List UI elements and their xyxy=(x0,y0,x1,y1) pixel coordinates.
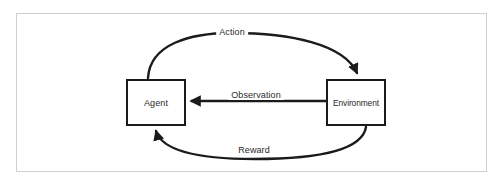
agent-node: Agent xyxy=(126,79,186,126)
diagram-canvas: Agent Environment Action Observation Rew… xyxy=(0,0,502,185)
action-edge-label: Action xyxy=(216,27,248,37)
action-arrow xyxy=(148,33,357,78)
observation-edge-label: Observation xyxy=(228,90,284,100)
environment-node-label: Environment xyxy=(333,98,379,108)
reward-edge-label: Reward xyxy=(235,145,273,155)
environment-node: Environment xyxy=(326,79,386,126)
agent-node-label: Agent xyxy=(144,98,168,108)
